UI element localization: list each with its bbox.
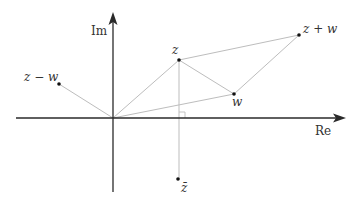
segment-origin-z-minus-w [59,84,113,118]
label-z-conjugate: z̄ [180,181,188,195]
point-z-plus-w [297,33,301,37]
label-z-minus-w: z − w [23,70,59,84]
segment-origin-z [113,60,179,118]
point-z-conjugate [176,177,180,181]
complex-plane-diagram: Re Im z w z + w z − w z̄ [0,0,359,201]
point-z [177,58,181,62]
label-w: w [232,95,243,109]
segment-origin-w [113,94,234,118]
segment-z-w [179,60,234,94]
segment-w-z-plus-w [234,35,299,94]
label-z: z [171,43,179,57]
imaginary-axis-label: Im [91,24,108,38]
segments [59,35,299,179]
label-z-plus-w: z + w [302,22,338,36]
point-labels: z w z + w z − w z̄ [23,22,338,195]
axes: Re Im [16,12,346,192]
right-angle-marker [179,112,185,118]
segment-z-z-plus-w [179,35,299,60]
real-axis-label: Re [315,124,331,138]
